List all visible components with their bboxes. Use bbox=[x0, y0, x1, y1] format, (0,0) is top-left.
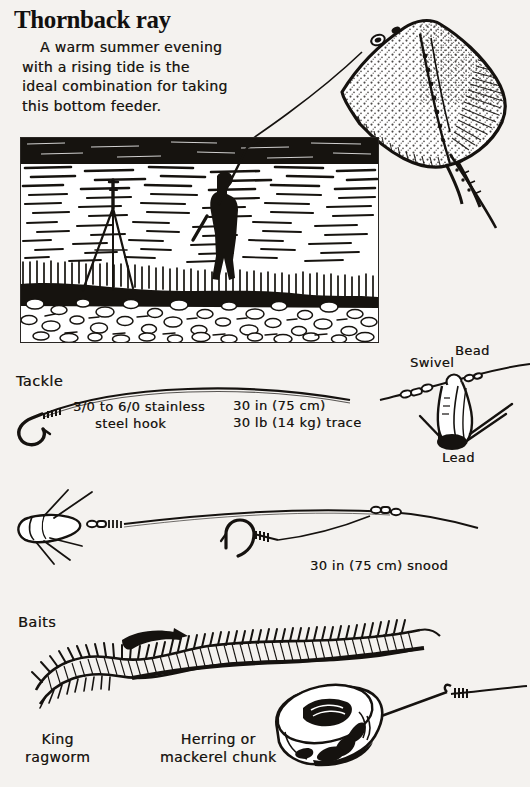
trace-callout: 30 in (75 cm) 30 lb (14 kg) trace bbox=[233, 398, 362, 431]
bead-label: Bead bbox=[455, 343, 490, 358]
hook-callout-line-2: steel hook bbox=[73, 416, 166, 433]
swivel-label: Swivel bbox=[410, 355, 454, 370]
snood-hook-icon bbox=[221, 520, 278, 556]
chunk-label-line-2: mackerel chunk bbox=[160, 749, 277, 765]
intro-line-3: ideal combination for taking bbox=[22, 78, 228, 94]
swivel-bead-lead-assembly bbox=[380, 352, 530, 457]
intro-line-4: this bottom feeder. bbox=[22, 98, 161, 114]
intro-line-2: with a rising tide is the bbox=[22, 59, 190, 75]
ragworm-label-line-1: King bbox=[41, 731, 73, 747]
trace-callout-line-1: 30 in (75 cm) bbox=[233, 398, 326, 413]
trace-callout-line-2: 30 lb (14 kg) trace bbox=[233, 415, 362, 430]
illustrated-fishing-guide-page: Thornback ray A warm summer evening with… bbox=[0, 0, 530, 787]
snood-label: 30 in (75 cm) snood bbox=[310, 558, 448, 573]
chunk-label-line-1: Herring or bbox=[181, 731, 256, 747]
page-title: Thornback ray bbox=[14, 6, 171, 34]
swivel-icon bbox=[400, 383, 433, 398]
hook-callout: 3/0 to 6/0 stainless steel hook bbox=[73, 399, 205, 432]
mackerel-chunk-illustration bbox=[255, 660, 530, 787]
ragworm-label-line-2: ragworm bbox=[25, 749, 90, 765]
lead-weight-icon bbox=[18, 515, 80, 543]
king-ragworm-label: King ragworm bbox=[25, 730, 90, 766]
mackerel-chunk-label: Herring or mackerel chunk bbox=[160, 730, 277, 766]
hook-callout-line-1: 3/0 to 6/0 stainless bbox=[73, 399, 205, 414]
intro-line-1: A warm summer evening bbox=[22, 38, 222, 58]
beach-fishing-scene bbox=[20, 137, 379, 343]
lead-label: Lead bbox=[442, 450, 475, 465]
